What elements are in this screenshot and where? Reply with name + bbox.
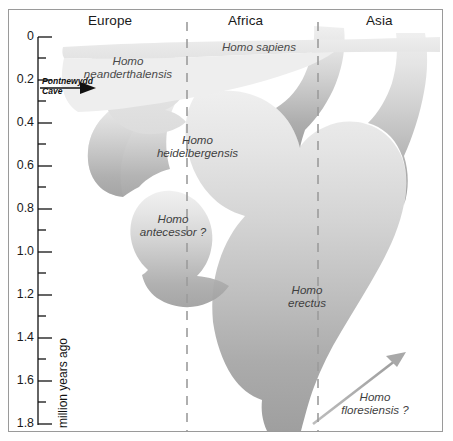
region-label-africa: Africa [228,13,263,28]
taxon-floresiensis-line2: floresiensis ? [341,403,409,416]
y-axis-title: million years ago [56,338,70,428]
tick-label-0: 0 [4,29,34,43]
tick-label-1-8: 1.8 [4,416,34,430]
tick-label-1-0: 1.0 [4,244,34,258]
tick-label-0-8: 0.8 [4,201,34,215]
taxon-sapiens-line1: Homo sapiens [222,40,296,53]
region-label-europe: Europe [88,13,132,28]
taxon-heidelbergensis-line1: Homo [182,133,213,146]
taxon-neanderthalensis-line2: neanderthalensis [84,67,172,80]
tree-shapes-group [61,26,440,431]
taxon-floresiensis-line1: Homo [360,390,391,403]
taxon-label-homo-heidelbergensis: Homo heidelbergensis [140,133,255,159]
taxon-label-homo-neanderthalensis: Homo neanderthalensis [68,54,188,80]
taxon-label-homo-erectus: Homo erectus [262,283,352,309]
tick-label-0-6: 0.6 [4,158,34,172]
taxon-neanderthalensis-line1: Homo [113,54,144,67]
tick-label-1-6: 1.6 [4,373,34,387]
region-label-asia: Asia [366,13,393,28]
taxon-erectus-line2: erectus [288,296,326,309]
taxon-label-homo-antecessor: Homo antecessor ? [123,212,223,238]
hominin-phylogeny-figure: Europe Africa Asia 0 0.2 0.4 0.6 0.8 1.0… [0,0,453,441]
tick-label-1-2: 1.2 [4,287,34,301]
tick-label-0-2: 0.2 [4,72,34,86]
annotation-pontnewydd-line2: Cave [42,86,63,96]
taxon-label-homo-floresiensis: Homo floresiensis ? [320,390,430,416]
taxon-antecessor-line2: antecessor ? [140,225,206,238]
tick-label-0-4: 0.4 [4,115,34,129]
taxon-erectus-line1: Homo [292,283,323,296]
taxon-antecessor-line1: Homo [158,212,189,225]
taxon-label-homo-sapiens: Homo sapiens [204,40,314,53]
homo-antecessor-shape [130,191,229,307]
taxon-heidelbergensis-line2: heidelbergensis [157,146,238,159]
tick-label-1-4: 1.4 [4,330,34,344]
